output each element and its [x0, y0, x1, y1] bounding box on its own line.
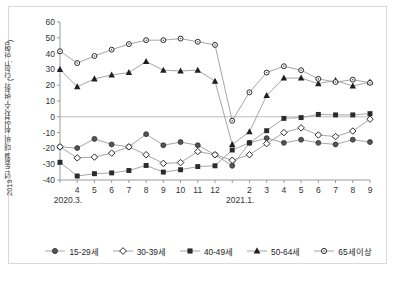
data-point-filled-triangle — [143, 58, 149, 64]
legend-label: 50-64세 — [271, 245, 300, 257]
chart-page: 2019년 동월 대비 취업자수 변화 (단위: 만명) 60504030201… — [0, 0, 395, 283]
data-point-filled-circle — [75, 146, 80, 151]
data-point-open-diamond — [57, 144, 64, 151]
x-tick-label: 8 — [144, 185, 149, 195]
data-point-filled-square — [92, 171, 97, 176]
legend-label: 30-39세 — [137, 245, 166, 257]
data-point-open-diamond — [315, 132, 322, 139]
x-tick-label: 4 — [282, 185, 287, 195]
data-point-filled-square — [126, 168, 131, 173]
data-point-filled-square — [299, 115, 304, 120]
legend-item-65세이상[interactable]: 65세이상 — [313, 245, 371, 257]
x-tick-label: 5 — [299, 185, 304, 195]
x-tick-label: 7 — [333, 185, 338, 195]
y-tick-label: -30 — [43, 159, 56, 169]
figure-caption — [8, 268, 388, 282]
y-tick-label: 60 — [46, 17, 56, 27]
legend-item-50-64세[interactable]: 50-64세 — [246, 245, 300, 257]
data-point-filled-triangle — [281, 75, 287, 81]
y-tick-label: 0 — [50, 112, 55, 122]
series-50-64세 — [57, 58, 373, 147]
data-point-filled-triangle — [254, 247, 261, 253]
data-point-filled-circle — [161, 143, 166, 148]
data-point-open-circle — [350, 77, 355, 82]
legend-item-40-49세[interactable]: 40-49세 — [179, 245, 233, 257]
y-tick-label: -40 — [43, 175, 56, 185]
data-point-filled-circle — [316, 140, 321, 145]
data-point-open-circle — [109, 47, 114, 52]
data-point-open-circle — [144, 38, 149, 43]
data-point-filled-triangle — [246, 128, 252, 134]
legend-item-15-29세[interactable]: 15-29세 — [44, 245, 98, 257]
data-point-open-diamond — [212, 151, 219, 158]
data-point-open-circle — [264, 70, 269, 75]
data-point-filled-square — [368, 111, 373, 116]
data-point-open-circle — [247, 90, 252, 95]
legend-marker-open-circle — [313, 246, 335, 256]
y-tick-label: -20 — [43, 143, 56, 153]
legend-label: 40-49세 — [204, 245, 233, 257]
data-point-open-diamond — [91, 154, 98, 161]
data-point-open-diamond — [126, 144, 133, 151]
legend-marker-filled-square — [179, 246, 201, 256]
data-point-filled-square — [195, 164, 200, 169]
data-point-filled-square — [109, 170, 114, 175]
x-tick-label: 10 — [176, 185, 186, 195]
data-point-filled-square — [333, 112, 338, 117]
plot-area: 6050403020100-10-20-30-40456789101112234… — [38, 16, 376, 206]
y-tick-label: -10 — [43, 128, 56, 138]
data-point-open-diamond — [332, 133, 339, 140]
data-point-filled-circle — [299, 137, 304, 142]
legend-marker-filled-triangle — [246, 246, 268, 256]
data-point-filled-triangle — [195, 67, 201, 73]
x-tick-label: 9 — [368, 185, 373, 195]
legend-label: 65세이상 — [338, 245, 371, 257]
data-point-open-circle — [299, 68, 304, 73]
data-point-open-circle — [316, 76, 321, 81]
line-chart-svg: 6050403020100-10-20-30-40456789101112234… — [38, 16, 376, 206]
data-point-open-circle — [92, 54, 97, 59]
data-point-filled-circle — [195, 143, 200, 148]
data-point-filled-circle — [144, 132, 149, 137]
y-tick-label: 30 — [46, 64, 56, 74]
x-tick-label: 2 — [247, 185, 252, 195]
legend-item-30-39세[interactable]: 30-39세 — [112, 245, 166, 257]
data-point-open-circle — [230, 118, 235, 123]
data-point-filled-circle — [178, 140, 183, 145]
data-point-filled-square — [316, 112, 321, 117]
y-tick-label: 20 — [46, 80, 56, 90]
data-point-open-diamond — [246, 151, 253, 158]
data-point-filled-circle — [281, 140, 286, 145]
data-point-filled-circle — [350, 137, 355, 142]
data-point-filled-circle — [109, 142, 114, 147]
x-tick-label: 9 — [161, 185, 166, 195]
x-tick-label: 7 — [127, 185, 132, 195]
legend-label: 15-29세 — [69, 245, 98, 257]
data-point-filled-square — [178, 167, 183, 172]
data-point-open-diamond — [108, 150, 115, 157]
x-tick-label: 6 — [109, 185, 114, 195]
data-point-filled-square — [161, 170, 166, 175]
data-point-open-diamond — [177, 159, 184, 166]
x-tick-label: 5 — [92, 185, 97, 195]
data-point-open-circle — [333, 80, 338, 85]
data-point-filled-triangle — [212, 78, 218, 84]
data-point-filled-circle — [53, 248, 58, 253]
data-point-open-circle — [213, 42, 218, 47]
data-point-open-diamond — [74, 155, 81, 162]
y-tick-label: 50 — [46, 33, 56, 43]
data-point-open-diamond — [281, 129, 288, 136]
y-tick-label: 10 — [46, 96, 56, 106]
chart-legend: 15-29세30-39세40-49세50-64세65세이상 — [38, 243, 378, 259]
data-point-open-diamond — [298, 125, 305, 132]
data-point-open-circle — [322, 248, 327, 253]
data-point-open-circle — [281, 64, 286, 69]
data-point-open-circle — [178, 36, 183, 41]
x-tick-label: 6 — [316, 185, 321, 195]
data-point-filled-square — [281, 116, 286, 121]
x-tick-label: 4 — [75, 185, 80, 195]
data-point-open-circle — [161, 38, 166, 43]
x-tick-label: 12 — [210, 185, 220, 195]
data-point-open-circle — [75, 61, 80, 66]
x-group-label: 2021.1. — [226, 195, 254, 205]
